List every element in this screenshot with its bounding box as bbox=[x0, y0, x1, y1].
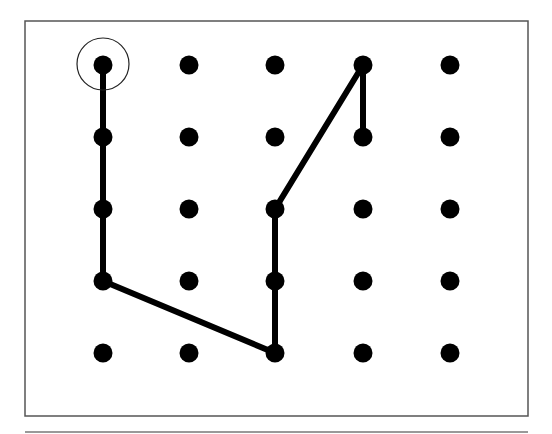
grid-dot bbox=[441, 200, 460, 219]
grid-dot bbox=[94, 344, 113, 363]
grid-dot bbox=[441, 56, 460, 75]
grid-dot bbox=[266, 56, 285, 75]
grid-dot bbox=[94, 200, 113, 219]
grid-dot bbox=[180, 344, 199, 363]
grid-dot bbox=[180, 56, 199, 75]
grid-dot bbox=[180, 128, 199, 147]
grid-dot bbox=[354, 344, 373, 363]
grid-dot bbox=[354, 272, 373, 291]
grid-dot bbox=[94, 56, 113, 75]
connecting-path bbox=[103, 65, 363, 353]
grid-dot bbox=[441, 128, 460, 147]
dot-grid-diagram bbox=[0, 0, 552, 434]
grid-dot bbox=[266, 344, 285, 363]
grid-dot bbox=[354, 56, 373, 75]
grid-dot bbox=[266, 272, 285, 291]
grid-dot bbox=[441, 344, 460, 363]
grid-dot bbox=[354, 200, 373, 219]
grid-dot bbox=[441, 272, 460, 291]
grid-dot bbox=[180, 200, 199, 219]
grid-dot bbox=[266, 128, 285, 147]
grid-dot bbox=[354, 128, 373, 147]
grid-dot bbox=[266, 200, 285, 219]
grid-dot bbox=[94, 128, 113, 147]
grid-dot bbox=[94, 272, 113, 291]
grid-dot bbox=[180, 272, 199, 291]
